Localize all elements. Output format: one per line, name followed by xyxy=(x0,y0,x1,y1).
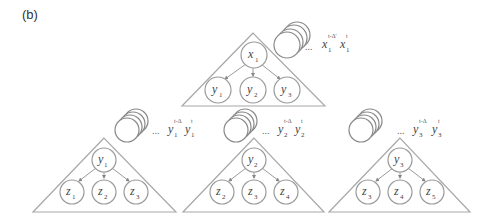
node-root: y 2 xyxy=(242,148,266,172)
svg-text:4: 4 xyxy=(400,193,404,201)
svg-text:y: y xyxy=(246,82,253,96)
svg-text:3: 3 xyxy=(400,161,404,169)
svg-text:z: z xyxy=(279,184,285,198)
svg-text:5: 5 xyxy=(432,193,436,201)
node-child-3: z 4 xyxy=(274,180,298,204)
svg-text:1: 1 xyxy=(255,56,259,64)
history-sub-now: 3 xyxy=(438,131,442,139)
svg-text:z: z xyxy=(129,184,135,198)
svg-text:y: y xyxy=(280,82,287,96)
history-var-now: y xyxy=(294,122,301,136)
svg-text:z: z xyxy=(65,184,71,198)
svg-text:z: z xyxy=(425,184,431,198)
svg-text:3: 3 xyxy=(136,193,140,201)
history-var-now: x xyxy=(339,37,346,51)
node-child-3: y 3 xyxy=(274,77,300,103)
svg-text:4: 4 xyxy=(286,193,290,201)
svg-text:2: 2 xyxy=(222,193,226,201)
history-sup-past: t-Δ xyxy=(174,118,182,124)
node-child-3: z 3 xyxy=(124,180,148,204)
node-child-2: z 2 xyxy=(92,180,116,204)
svg-text:1: 1 xyxy=(72,193,76,201)
history-sup-now: t xyxy=(438,118,440,124)
svg-text:z: z xyxy=(361,184,367,198)
svg-text:z: z xyxy=(247,184,253,198)
history-var-past: x xyxy=(321,37,328,51)
history-sup-past: t-Δ' xyxy=(328,33,337,39)
svg-text:3: 3 xyxy=(254,193,258,201)
svg-text:x: x xyxy=(247,47,254,61)
history-sub-now: 1 xyxy=(191,131,195,139)
svg-text:z: z xyxy=(393,184,399,198)
svg-text:y: y xyxy=(97,152,104,166)
history-stack xyxy=(115,109,148,142)
ellipsis: ... xyxy=(152,125,160,136)
svg-text:y: y xyxy=(393,152,400,166)
svg-text:2: 2 xyxy=(254,91,258,99)
tree-middle: ... y t-Δ 2 y t 2 y 2 z 2 z 3 z 4 xyxy=(183,109,324,212)
ellipsis: ... xyxy=(262,125,270,136)
svg-text:3: 3 xyxy=(368,193,372,201)
svg-text:z: z xyxy=(97,184,103,198)
svg-text:2: 2 xyxy=(254,161,258,169)
history-stack xyxy=(274,22,310,58)
svg-text:2: 2 xyxy=(104,193,108,201)
node-child-2: z 4 xyxy=(388,180,412,204)
tree-left: ... y t-Δ 1 y t 1 y 1 z 1 z 2 z 3 xyxy=(33,109,195,212)
history-var-now: y xyxy=(431,122,438,136)
svg-text:1: 1 xyxy=(104,161,108,169)
node-child-1: y 1 xyxy=(205,77,231,103)
history-sub-past: 3 xyxy=(419,131,423,139)
node-child-2: y 2 xyxy=(240,77,266,103)
history-sub-past: 2 xyxy=(284,131,288,139)
node-root: y 3 xyxy=(388,148,412,172)
ellipsis: ... xyxy=(305,41,313,52)
tree-top: ... x t-Δ' 1 x t 1 x 1 y 1 y 2 y 3 xyxy=(182,22,350,106)
svg-text:z: z xyxy=(215,184,221,198)
history-var-past: y xyxy=(167,122,174,136)
node-child-1: z 1 xyxy=(60,180,84,204)
history-sub-now: 2 xyxy=(301,131,305,139)
history-sup-past: t-Δ xyxy=(284,118,292,124)
history-stack xyxy=(349,109,382,142)
svg-text:y: y xyxy=(247,152,254,166)
hierarchy-diagram: ... x t-Δ' 1 x t 1 x 1 y 1 y 2 y 3 xyxy=(0,0,497,222)
history-var-past: y xyxy=(277,122,284,136)
svg-text:y: y xyxy=(211,82,218,96)
history-sup-now: t xyxy=(301,118,303,124)
history-sub-past: 1 xyxy=(328,46,332,54)
history-sup-past: t-Δ xyxy=(419,118,427,124)
node-root: x 1 xyxy=(241,42,267,68)
svg-text:1: 1 xyxy=(219,91,223,99)
node-child-1: z 3 xyxy=(356,180,380,204)
ellipsis: ... xyxy=(397,125,405,136)
history-var-past: y xyxy=(412,122,419,136)
node-child-1: z 2 xyxy=(210,180,234,204)
history-sub-now: 1 xyxy=(346,46,350,54)
history-sup-now: t xyxy=(346,33,348,39)
history-sup-now: t xyxy=(191,118,193,124)
svg-text:3: 3 xyxy=(288,91,292,99)
history-var-now: y xyxy=(184,122,191,136)
history-sub-past: 1 xyxy=(174,131,178,139)
tree-right: ... y t-Δ 3 y t 3 y 3 z 3 z 4 z 5 xyxy=(329,109,470,212)
node-child-3: z 5 xyxy=(420,180,444,204)
history-stack xyxy=(224,109,257,142)
node-child-2: z 3 xyxy=(242,180,266,204)
node-root: y 1 xyxy=(92,148,116,172)
